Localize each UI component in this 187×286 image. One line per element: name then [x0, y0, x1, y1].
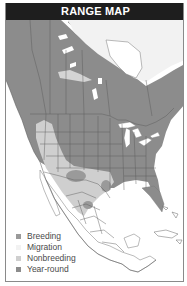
range-map-title: RANGE MAP: [6, 3, 184, 20]
map-legend: Breeding Migration Nonbreeding Year-roun…: [16, 231, 76, 275]
breeding-swatch: [16, 234, 21, 239]
migration-swatch: [16, 245, 21, 250]
legend-item-breeding: Breeding: [16, 231, 76, 242]
legend-item-migration: Migration: [16, 242, 76, 253]
year-round-swatch: [16, 267, 21, 272]
nonbreeding-swatch: [16, 256, 21, 261]
legend-item-year-round: Year-round: [16, 264, 76, 275]
legend-item-nonbreeding: Nonbreeding: [16, 253, 76, 264]
range-map-card: RANGE MAP: [5, 3, 184, 282]
